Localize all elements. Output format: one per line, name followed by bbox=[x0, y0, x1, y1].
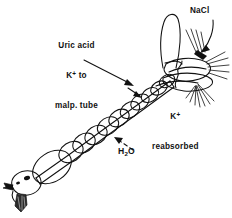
label-k-to: to bbox=[76, 72, 87, 81]
label-k-reabsorbed-line2: reabsorbed bbox=[152, 142, 199, 152]
label-uric-acid-line2: K+ to bbox=[55, 70, 98, 81]
label-uric-acid-line3: malp. tube bbox=[55, 101, 98, 111]
mouthparts bbox=[3, 183, 27, 212]
rectum bbox=[156, 58, 213, 91]
label-water-o: O bbox=[128, 146, 135, 156]
label-k-reabsorbed-charge: + bbox=[176, 111, 180, 118]
water-arrowhead bbox=[114, 137, 123, 144]
label-nacl: NaCl bbox=[190, 6, 209, 16]
nacl-leader bbox=[203, 20, 213, 50]
uric-acid-arrowhead bbox=[124, 79, 134, 86]
label-uric-acid: Uric acid K+ to malp. tube bbox=[55, 22, 98, 130]
insect-gut-diagram: Uric acid K+ to malp. tube NaCl K+ reabs… bbox=[0, 0, 232, 218]
label-water: H2O bbox=[118, 146, 135, 157]
label-uric-acid-line1: Uric acid bbox=[55, 41, 98, 51]
eye bbox=[16, 175, 31, 185]
malpighian-tubule-loop bbox=[161, 14, 182, 68]
label-k-reabsorbed-line1: K+ bbox=[152, 111, 199, 122]
label-k-reabsorbed: K+ reabsorbed bbox=[152, 92, 199, 171]
